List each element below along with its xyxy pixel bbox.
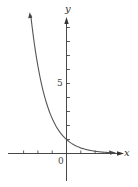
origin-label: 0 — [58, 157, 64, 166]
axes — [8, 17, 124, 181]
y-tick-label-5: 5 — [57, 79, 63, 88]
x-axis-arrow-icon — [117, 151, 124, 155]
y-axis-label: y — [65, 4, 71, 14]
curve-arrow-top-icon — [28, 12, 32, 18]
curve-arrow-right-icon — [110, 151, 116, 155]
exponential-graph — [0, 0, 138, 187]
x-axis-label: x — [124, 148, 130, 158]
y-axis-arrow-icon — [64, 17, 68, 24]
exponential-curve — [31, 15, 113, 153]
